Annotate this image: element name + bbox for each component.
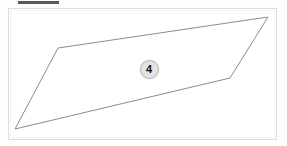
screenshot-root: 4 [0,0,287,146]
region-number-label: 4 [146,64,152,75]
region-number-badge[interactable]: 4 [140,60,159,79]
